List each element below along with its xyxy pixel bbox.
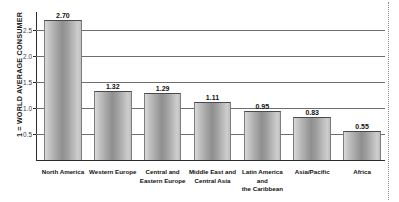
bar-value-label: 1.32 bbox=[95, 83, 131, 90]
bar-value-label: 1.11 bbox=[195, 94, 231, 101]
bar-value-label: 0.83 bbox=[294, 109, 330, 116]
bar-chart: 1 = WORLD AVERAGE CONSUMER 0.51.01.52.02… bbox=[0, 0, 399, 202]
gridline: 1.5 bbox=[36, 82, 385, 83]
category-label: Central and Eastern Europe bbox=[138, 168, 188, 185]
y-tick-label: 2.0 bbox=[23, 53, 32, 60]
bar: 0.95 bbox=[244, 111, 282, 160]
bar-value-label: 0.95 bbox=[245, 103, 281, 110]
x-axis-line bbox=[36, 160, 385, 161]
y-tick-mark bbox=[33, 108, 36, 109]
y-tick-mark bbox=[33, 30, 36, 31]
bar: 1.32 bbox=[94, 91, 132, 160]
plot-area: 0.51.01.52.02.5 2.701.321.291.110.950.83… bbox=[36, 12, 385, 160]
bar: 0.83 bbox=[293, 117, 331, 160]
bar: 1.29 bbox=[144, 93, 182, 160]
y-axis-line bbox=[36, 12, 37, 161]
category-label: Middle East and Central Asia bbox=[188, 168, 238, 185]
y-axis-title: 1 = WORLD AVERAGE CONSUMER bbox=[15, 0, 24, 150]
category-label: Africa bbox=[337, 168, 387, 177]
bar: 2.70 bbox=[44, 20, 82, 160]
y-tick-mark bbox=[33, 134, 36, 135]
gridline: 2.5 bbox=[36, 30, 385, 31]
bar-value-label: 0.55 bbox=[344, 123, 380, 130]
dotted-right-rule bbox=[388, 2, 389, 200]
bar: 1.11 bbox=[194, 102, 232, 160]
y-tick-label: 0.5 bbox=[23, 131, 32, 138]
y-tick-label: 1.5 bbox=[23, 79, 32, 86]
gridline: 2.0 bbox=[36, 56, 385, 57]
category-label: Latin America and the Caribbean bbox=[237, 168, 287, 194]
category-label: North America bbox=[38, 168, 88, 177]
y-tick-mark bbox=[33, 56, 36, 57]
bar-value-label: 2.70 bbox=[45, 12, 81, 19]
category-label: Asia/Pacific bbox=[287, 168, 337, 177]
bar: 0.55 bbox=[343, 131, 381, 160]
bar-value-label: 1.29 bbox=[145, 85, 181, 92]
category-label: Western Europe bbox=[88, 168, 138, 177]
y-tick-mark bbox=[33, 82, 36, 83]
y-tick-label: 1.0 bbox=[23, 105, 32, 112]
y-tick-label: 2.5 bbox=[23, 27, 32, 34]
